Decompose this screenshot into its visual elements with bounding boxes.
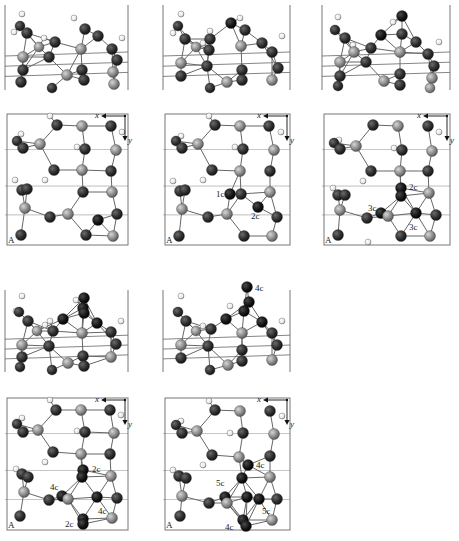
atom-dark-icon [267,47,278,58]
site-label: 1c [216,189,225,199]
panel-top-3c: xyA2c3c3c [322,110,454,245]
atom-hydrogen-icon [335,14,341,20]
atom-carbon-icon [79,308,90,319]
atom-hydrogen-icon [232,144,238,150]
panel-side-2c [163,5,290,93]
atom-dark-icon [48,447,59,458]
arrow-down-icon [445,136,450,141]
atoms [170,113,284,242]
corner-label: A [8,520,15,530]
site-label: 4c [50,482,59,492]
atom-hydrogen-icon [436,39,442,45]
panel-side-3c [322,5,450,93]
atom-dark-icon [236,189,247,200]
atom-dark-icon [204,45,215,56]
atom-dark-icon [80,24,91,35]
atom-hydrogen-icon [237,15,243,21]
axis-y-label: y [289,419,294,429]
atom-dark-icon [240,25,251,36]
atom-gray-icon [395,166,406,177]
atom-carbon-icon [411,208,422,219]
panels-layer: xyAxyA1c2cxyA2c3c3c4cxyA2c4c4c2cxyA4c5c5… [5,5,454,532]
site-label: 5c [262,506,271,516]
atom-hydrogen-icon [47,113,53,119]
atom-hydrogen-icon [12,177,18,183]
panel-top-0c: xyA [5,110,132,245]
atom-dark-icon [80,144,91,155]
atom-dark-icon [210,405,221,416]
atom-dark-icon [333,81,343,91]
atom-hydrogen-icon [206,398,212,404]
atom-carbon-icon [78,519,89,530]
atom-gray-icon [267,231,278,242]
atom-gray-icon [235,166,246,177]
atom-dark-icon [23,472,34,483]
atom-dark-icon [45,212,56,223]
atom-hydrogen-icon [365,239,371,245]
atom-dark-icon [238,144,249,155]
atom-carbon-icon [221,314,232,325]
atom-dark-icon [15,511,26,522]
atom-dark-icon [423,49,434,60]
atom-dark-icon [112,55,123,66]
atom-dark-icon [174,231,185,242]
site-label: 2c [92,464,101,474]
cell-frame [165,114,290,245]
atom-dark-icon [205,34,216,45]
atom-gray-icon [192,426,203,437]
atom-dark-icon [210,120,221,131]
atom-gray-icon [177,491,188,502]
atom-dark-icon [16,77,27,88]
atom-dark-icon [362,213,373,224]
atom-gray-icon [269,429,280,440]
atom-gray-icon [222,498,233,509]
atom-dark-icon [238,428,249,439]
axis-x-label: x [94,394,99,404]
atom-gray-icon [76,405,87,416]
atom-gray-icon [393,121,404,132]
atom-carbon-icon [243,460,254,471]
atom-dark-icon [49,165,60,176]
site-label: 4c [225,522,234,532]
atom-gray-icon [425,231,436,242]
atom-hydrogen-icon [200,323,206,329]
atom-hydrogen-icon [360,178,366,184]
atom-dark-icon [105,449,116,460]
site-label: 4c [255,283,264,293]
atom-dark-icon [22,184,33,195]
atom-dark-icon [264,121,275,132]
atom-gray-icon [222,77,233,88]
atom-dark-icon [47,365,57,375]
atom-gray-icon [35,139,46,150]
atom-dark-icon [78,351,89,362]
atom-dark-icon [396,231,407,242]
atom-dark-icon [176,71,187,82]
atom-dark-icon [44,52,55,63]
arrow-down-icon [285,420,290,425]
axis-y-label: y [127,135,132,145]
atom-gray-icon [63,209,74,220]
atom-gray-icon [222,209,233,220]
atom-gray-icon [424,188,435,199]
atom-carbon-icon [226,18,237,29]
atom-carbon-icon [376,30,387,41]
atom-carbon-icon [397,11,408,22]
atom-gray-icon [77,121,88,132]
atom-dark-icon [177,143,188,154]
atom-gray-icon [108,67,119,78]
atom-dark-icon [107,44,118,55]
axis-x-label: x [94,110,99,120]
atom-gray-icon [191,326,201,336]
atom-carbon-icon [241,521,252,532]
atom-hydrogen-icon [227,430,233,436]
atom-gray-icon [109,428,120,439]
atom-dark-icon [423,121,434,132]
atom-dark-icon [237,75,248,86]
atom-dark-icon [366,43,377,54]
atom-hydrogen-icon [279,413,285,419]
axis-x-label: x [256,110,261,120]
atom-gray-icon [265,472,276,483]
atom-dark-icon [173,307,183,317]
atom-dark-icon [206,324,217,335]
atom-hydrogen-icon [73,297,79,303]
